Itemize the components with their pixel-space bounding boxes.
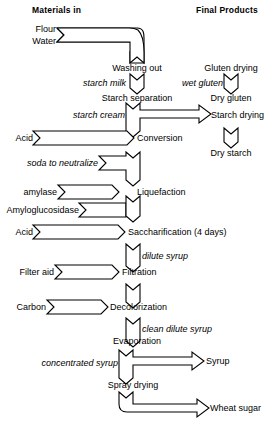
label-syrup: Syrup [206, 356, 230, 366]
arrow-spray-drying-to-wheat-sugar [119, 392, 209, 417]
label-starch-separation: Starch separation [102, 93, 173, 103]
label-water: Water [32, 36, 56, 46]
label-conversion: Conversion [137, 133, 183, 143]
arrow-flour-water-body [57, 28, 144, 63]
label-starch-cream: starch cream [73, 110, 125, 120]
label-soda-to-neutralize: soda to neutralize [27, 158, 98, 168]
process-flow-diagram: Materials in Final Products [0, 0, 274, 429]
label-liquefaction: Liquefaction [137, 187, 186, 197]
label-clean-dilute-syrup: clean dilute syrup [142, 324, 212, 334]
label-acid-saccharification: Acid [15, 227, 33, 237]
label-filtration: Filtration [122, 267, 157, 277]
label-carbon: Carbon [16, 302, 46, 312]
label-saccharification: Saccharification (4 days) [128, 227, 227, 237]
label-amylase: amylase [23, 187, 57, 197]
label-wet-gluten: wet gluten [182, 78, 223, 88]
arrow-amylase-to-liquefaction [58, 185, 119, 199]
label-evaporation: Evaporation [113, 336, 161, 346]
arrow-liquefaction-to-saccharification [126, 196, 140, 222]
arrow-filter-aid-to-filtration [55, 265, 119, 279]
arrow-starch-separation-branch [126, 103, 211, 137]
label-washing-out: Washing out [112, 63, 162, 73]
label-flour: Flour [35, 24, 56, 34]
arrow-washing-out-to-starch-separation [130, 74, 144, 94]
label-amyloglucosidase: Amyloglucosidase [6, 205, 79, 215]
arrow-acid-to-conversion [33, 131, 134, 145]
arrow-carbon-to-decolorization [47, 300, 108, 314]
label-filter-aid: Filter aid [19, 267, 54, 277]
label-wheat-sugar: Wheat sugar [210, 403, 261, 413]
label-starch-milk: starch milk [83, 78, 126, 88]
label-spray-drying: Spray drying [108, 380, 159, 390]
label-concentrated-syrup: concentrated syrup [41, 358, 118, 368]
arrow-starch-drying-to-dry-starch [224, 128, 238, 148]
arrow-amyloglucosidase-to-saccharification [79, 203, 126, 217]
label-dilute-syrup: dilute syrup [142, 251, 188, 261]
arrow-acid-to-saccharification [33, 225, 125, 239]
arrow-conversion-to-liquefaction [99, 152, 140, 186]
label-starch-drying: Starch drying [211, 110, 264, 120]
label-dry-gluten: Dry gluten [210, 93, 251, 103]
label-dry-starch: Dry starch [210, 148, 251, 158]
label-decolorization: Decolorization [110, 302, 167, 312]
label-acid-conversion: Acid [15, 133, 33, 143]
label-gluten-drying: Gluten drying [204, 63, 258, 73]
arrow-evaporation-branch [119, 350, 204, 384]
